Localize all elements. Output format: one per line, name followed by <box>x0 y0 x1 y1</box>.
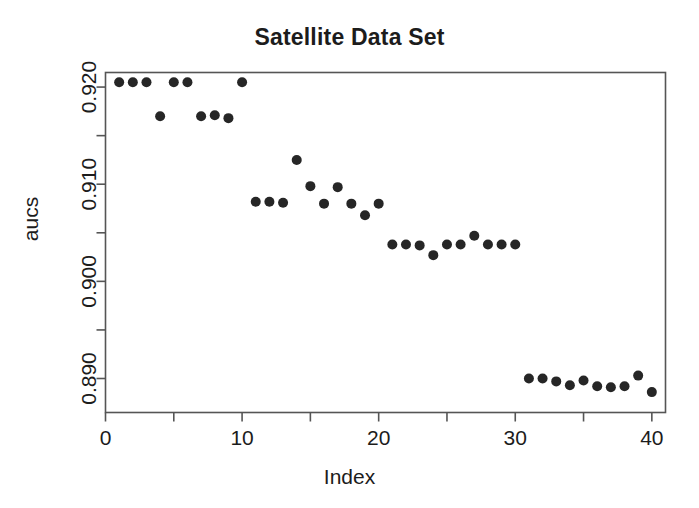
data-point <box>510 239 520 249</box>
y-axis-ticks <box>97 87 106 378</box>
data-point <box>606 382 616 392</box>
data-point <box>387 239 397 249</box>
data-point <box>346 199 356 209</box>
data-point <box>620 381 630 391</box>
data-point <box>155 111 165 121</box>
data-point <box>196 111 206 121</box>
data-point <box>428 250 438 260</box>
data-point <box>524 374 534 384</box>
x-tick-label: 30 <box>504 426 527 449</box>
data-point <box>565 380 575 390</box>
data-point <box>551 376 561 386</box>
x-tick-label: 20 <box>367 426 390 449</box>
data-point <box>647 387 657 397</box>
x-tick-label: 0 <box>100 426 112 449</box>
x-axis-label: Index <box>0 465 699 489</box>
data-points-group <box>114 77 657 397</box>
data-point <box>305 181 315 191</box>
y-tick-label: 0.890 <box>77 352 100 405</box>
data-point <box>592 381 602 391</box>
y-tick-label: 0.920 <box>77 61 100 114</box>
data-point <box>292 155 302 165</box>
data-point <box>538 374 548 384</box>
data-point <box>169 77 179 87</box>
x-tick-label: 10 <box>230 426 253 449</box>
data-point <box>264 197 274 207</box>
data-point <box>128 77 138 87</box>
plot-frame <box>106 73 666 413</box>
y-tick-label: 0.910 <box>77 158 100 211</box>
data-point <box>114 77 124 87</box>
data-point <box>415 240 425 250</box>
y-axis-label: aucs <box>19 174 43 264</box>
data-point <box>469 231 479 241</box>
data-point <box>141 77 151 87</box>
x-axis-tick-labels: 010203040 <box>100 426 664 449</box>
scatter-plot-canvas: 0.8900.9000.9100.920 010203040 <box>0 0 699 508</box>
data-point <box>251 197 261 207</box>
data-point <box>278 198 288 208</box>
data-point <box>442 239 452 249</box>
data-point <box>633 371 643 381</box>
data-point <box>374 199 384 209</box>
data-point <box>223 113 233 123</box>
data-point <box>579 375 589 385</box>
x-axis-ticks <box>106 413 652 422</box>
data-point <box>210 110 220 120</box>
y-axis-tick-labels: 0.8900.9000.9100.920 <box>77 61 100 405</box>
y-tick-label: 0.900 <box>77 255 100 308</box>
data-point <box>333 182 343 192</box>
data-point <box>483 239 493 249</box>
x-tick-label: 40 <box>640 426 663 449</box>
data-point <box>182 77 192 87</box>
data-point <box>237 77 247 87</box>
plot-box-border <box>106 73 666 413</box>
data-point <box>456 239 466 249</box>
data-point <box>401 239 411 249</box>
data-point <box>360 210 370 220</box>
data-point <box>497 239 507 249</box>
data-point <box>319 199 329 209</box>
chart-figure: Satellite Data Set 0.8900.9000.9100.920 … <box>0 0 699 508</box>
